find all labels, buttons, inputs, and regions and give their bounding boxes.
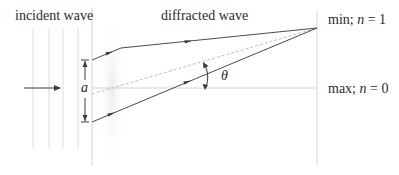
- diffracted-wave-label: diffracted wave: [161, 8, 248, 24]
- incident-wave-label: incident wave: [15, 8, 93, 24]
- slit-glow: [98, 10, 126, 170]
- min-prefix: min;: [328, 12, 357, 27]
- angle-label: θ: [221, 68, 228, 84]
- max-var: n: [360, 81, 367, 96]
- top-ray: [92, 28, 317, 60]
- central-ray-dashed: [92, 28, 317, 94]
- max-label: max; n = 0: [328, 81, 388, 97]
- min-label: min; n = 1: [328, 12, 386, 28]
- bottom-ray-mid-arrow-icon: [183, 81, 191, 85]
- max-suffix: = 0: [367, 81, 389, 96]
- slit-width-label: a: [80, 80, 89, 96]
- max-prefix: max;: [328, 81, 360, 96]
- min-suffix: = 1: [364, 12, 386, 27]
